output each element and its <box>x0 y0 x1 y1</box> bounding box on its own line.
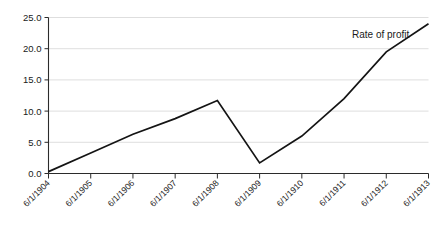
x-tick-label: 6/1/1909 <box>232 178 263 209</box>
chart-canvas: 0.05.010.015.020.025.0 6/1/19046/1/19056… <box>0 0 440 238</box>
series-annotation-label: Rate of profit <box>352 29 409 40</box>
y-tick-label: 25.0 <box>23 12 42 23</box>
x-tick-label: 6/1/1906 <box>106 178 137 209</box>
gridlines-group <box>49 18 429 174</box>
line-chart: 0.05.010.015.020.025.0 6/1/19046/1/19056… <box>0 0 440 238</box>
x-tick-label: 6/1/1904 <box>21 178 52 209</box>
y-tick-label: 15.0 <box>23 74 42 85</box>
annotations-group: Rate of profit <box>352 29 409 40</box>
x-tick-label: 6/1/1911 <box>317 178 347 208</box>
y-axis-ticks-group: 0.05.010.015.020.025.0 <box>23 12 49 179</box>
x-tick-label: 6/1/1910 <box>275 178 306 209</box>
y-tick-label: 5.0 <box>28 137 41 148</box>
x-tick-label: 6/1/1913 <box>401 178 432 209</box>
y-tick-label: 10.0 <box>23 106 42 117</box>
data-series-group <box>49 24 429 172</box>
y-tick-label: 20.0 <box>23 43 42 54</box>
x-axis-ticks-group: 6/1/19046/1/19056/1/19066/1/19076/1/1908… <box>21 174 432 209</box>
x-tick-label: 6/1/1905 <box>63 178 94 209</box>
x-tick-label: 6/1/1912 <box>359 178 390 209</box>
series-line-rate-of-profit <box>49 24 429 172</box>
x-tick-label: 6/1/1907 <box>148 178 179 209</box>
y-tick-label: 0.0 <box>28 168 41 179</box>
x-tick-label: 6/1/1908 <box>190 178 221 209</box>
